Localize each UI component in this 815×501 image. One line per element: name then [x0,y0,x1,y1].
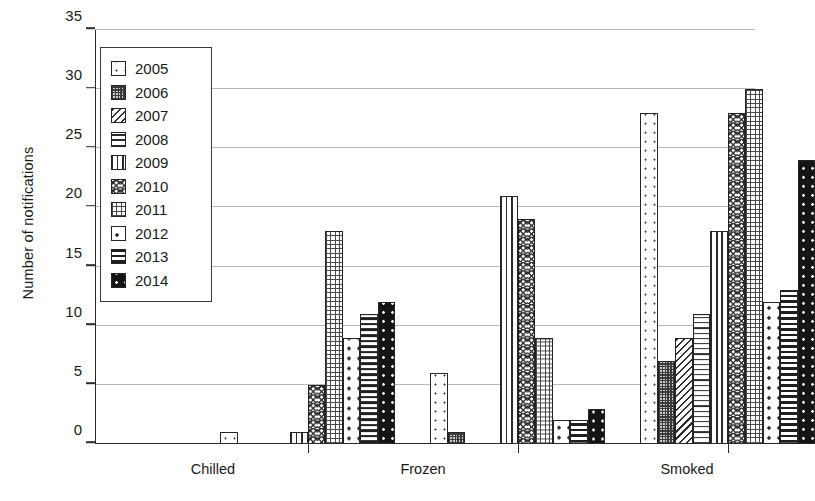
legend-item[interactable]: 2010 [111,175,203,199]
y-tick-mark [86,146,95,148]
y-axis-title: Number of notifications [20,103,36,343]
legend-item-label: 2011 [135,202,167,217]
legend-item[interactable]: 2005 [111,57,203,81]
y-tick-mark [86,205,95,207]
x-tick-mark [308,444,310,453]
y-tick-label: 10 [37,303,95,318]
x-axis-label: Smoked [660,461,713,477]
y-tick-label: 30 [37,67,95,82]
x-tick-mark [728,444,730,453]
legend-item-label: 2008 [135,132,168,147]
y-tick-mark [86,382,95,384]
legend-swatch-icon [111,108,126,123]
legend-swatch-icon [111,202,126,217]
legend-item-label: 2010 [135,179,168,194]
legend-item[interactable]: 2011 [111,198,203,222]
legend-item[interactable]: 2014 [111,269,203,293]
legend-swatch-icon [111,61,126,76]
legend-item-label: 2005 [135,61,168,76]
y-tick-mark [86,442,95,444]
legend-item[interactable]: 2013 [111,245,203,269]
legend-swatch-icon [111,179,126,194]
y-tick-label: 15 [37,244,95,259]
legend-item[interactable]: 2007 [111,104,203,128]
legend-swatch-icon [111,273,126,288]
x-axis-label: Frozen [400,461,445,477]
legend-item[interactable]: 2012 [111,222,203,246]
legend-item-label: 2014 [135,273,168,288]
y-tick-mark [86,323,95,325]
y-tick-mark [86,264,95,266]
y-tick-label: 0 [37,422,95,437]
legend-item[interactable]: 2009 [111,151,203,175]
y-tick-label: 25 [37,126,95,141]
y-tick-label: 20 [37,185,95,200]
legend: 2005200620072008200920102011201220132014 [100,47,212,302]
legend-item[interactable]: 2006 [111,81,203,105]
legend-item-label: 2007 [135,108,168,123]
legend-item-label: 2009 [135,155,168,170]
y-tick-mark [86,87,95,89]
legend-item-label: 2013 [135,249,168,264]
bar [798,160,815,444]
legend-swatch-icon [111,226,126,241]
legend-swatch-icon [111,132,126,147]
x-tick-mark [518,444,520,453]
bar [763,302,781,444]
bar [780,290,798,444]
y-tick-mark [86,28,95,30]
y-tick-label: 5 [37,362,95,377]
legend-item-label: 2006 [135,85,168,100]
legend-swatch-icon [111,249,126,264]
legend-item-label: 2012 [135,226,168,241]
legend-swatch-icon [111,85,126,100]
y-tick-label: 35 [37,8,95,23]
legend-swatch-icon [111,155,126,170]
x-axis-label: Chilled [191,461,235,477]
legend-item[interactable]: 2008 [111,128,203,152]
